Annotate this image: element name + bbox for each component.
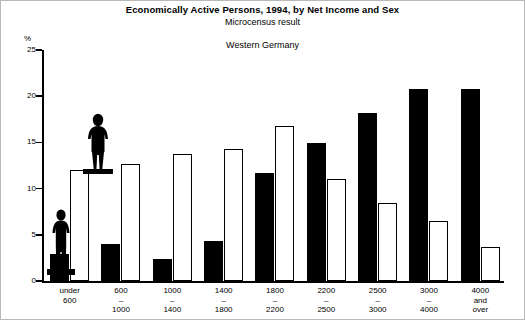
bar-group	[151, 154, 194, 282]
y-tick-label: 10	[18, 184, 36, 193]
bar-women-5	[275, 126, 294, 281]
bar-women-6	[327, 179, 346, 281]
bar-women-7	[378, 203, 397, 281]
bar-women-8	[429, 221, 448, 281]
x-category-label: 4000andover	[450, 286, 510, 315]
bar-men-9	[461, 89, 480, 281]
y-axis-line	[42, 50, 44, 281]
y-tick-mark	[36, 280, 42, 282]
bar-men-7	[358, 113, 377, 281]
bar-group	[202, 149, 245, 281]
bar-group	[356, 113, 399, 281]
y-tick-label: 25	[18, 45, 36, 54]
y-tick-mark	[36, 49, 42, 51]
y-tick-mark	[36, 188, 42, 190]
x-category-label-line: and	[450, 296, 510, 306]
bar-men-2	[101, 244, 120, 281]
region-annotation: Western Germany	[0, 40, 525, 50]
y-tick-mark	[36, 234, 42, 236]
page-title: Economically Active Persons, 1994, by Ne…	[0, 4, 525, 15]
woman-figure-icon	[81, 112, 115, 174]
bar-group	[459, 89, 502, 281]
y-tick-mark	[36, 95, 42, 97]
bar-men-6	[307, 143, 326, 281]
bar-women-9	[481, 247, 500, 281]
x-axis-line	[42, 281, 504, 283]
y-tick-mark	[36, 142, 42, 144]
bar-women-2	[121, 164, 140, 281]
man-figure-icon	[46, 208, 76, 275]
y-tick-label: 20	[18, 91, 36, 100]
bar-women-3	[173, 154, 192, 282]
plot-area: 2520151050 under600600–10001000–14001400…	[42, 50, 504, 281]
bar-men-5	[255, 173, 274, 281]
bar-men-3	[153, 259, 172, 281]
x-category-label-line: over	[450, 305, 510, 315]
y-axis-unit-label: %	[24, 34, 31, 43]
bar-group	[407, 89, 450, 281]
y-tick-label: 5	[18, 230, 36, 239]
bar-women-4	[224, 149, 243, 281]
y-tick-label: 15	[18, 137, 36, 146]
bar-group	[253, 126, 296, 281]
x-category-label-line: 4000	[450, 286, 510, 296]
bar-men-4	[204, 241, 223, 281]
page-subtitle: Microcensus result	[0, 17, 525, 27]
chart-page: Economically Active Persons, 1994, by Ne…	[0, 0, 525, 320]
bar-men-8	[409, 89, 428, 281]
bar-group	[99, 164, 142, 281]
y-tick-label: 0	[18, 276, 36, 285]
bar-group	[305, 143, 348, 281]
